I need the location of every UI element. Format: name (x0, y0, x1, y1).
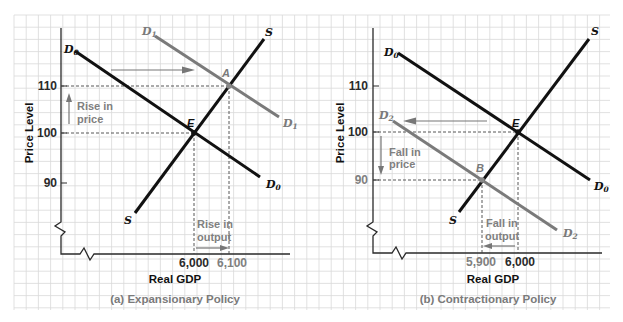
demand-curve-d0 (398, 53, 590, 180)
point-label-b: B (476, 162, 484, 174)
curve-label-d1: D1 (282, 117, 298, 131)
x-axis-title: Real GDP (149, 273, 202, 285)
point-label-e: E (187, 117, 195, 129)
curve-label-d2: D2 (378, 109, 394, 123)
arrow-head-icon (403, 118, 416, 125)
y-tick-label: 90 (44, 176, 58, 190)
curve-label-s: S (591, 25, 599, 38)
annotation-fall-price: price (389, 158, 415, 170)
x-tick-label: 6,000 (179, 256, 209, 270)
annotation-fall-price: Fall in (389, 146, 421, 158)
curve-label-d0: D0 (383, 46, 400, 60)
curve-label-d0: D0 (265, 178, 282, 192)
point-label-a: A (221, 67, 230, 79)
equilibrium-point-e (515, 129, 521, 135)
panel-caption: (a) Expansionary Policy (110, 293, 240, 305)
annotation-rise-price: Rise in (77, 100, 113, 112)
aggregate-demand-supply-figure: 110 100 90 6,000 6,100 Real GDP Price Le… (0, 0, 623, 322)
annotation-fall-output: Fall in (486, 217, 518, 229)
annotation-rise-output: output (197, 231, 232, 243)
y-tick-label: 110 (349, 79, 369, 93)
curve-label-d0: D0 (593, 180, 610, 194)
equilibrium-point-e (191, 130, 197, 136)
x-tick-label: 5,900 (466, 255, 496, 269)
annotation-rise-price: price (77, 113, 103, 125)
x-axis-title: Real GDP (467, 273, 520, 285)
point-label-e: E (512, 117, 520, 129)
curve-label-s: S (124, 214, 132, 227)
x-tick-label: 6,100 (217, 256, 247, 270)
equilibrium-point-a (226, 83, 232, 89)
equilibrium-point-b (479, 177, 485, 183)
y-axis (367, 28, 602, 259)
y-axis-title: Price Level (23, 103, 35, 164)
annotation-rise-output: Rise in (197, 218, 233, 230)
panel-contractionary: 110 100 90 5,900 6,000 Real GDP Price Le… (334, 25, 610, 305)
arrow-left-icon (483, 243, 492, 249)
y-tick-label: 90 (355, 173, 369, 187)
y-tick-label: 100 (348, 125, 368, 139)
y-tick-label: 100 (37, 126, 57, 140)
annotation-fall-output: output (485, 230, 520, 242)
arrow-head-icon (182, 67, 195, 74)
curve-label-s: S (265, 26, 273, 39)
curve-label-s: S (449, 214, 457, 227)
y-axis-title: Price Level (334, 103, 346, 164)
y-tick-label: 110 (38, 79, 58, 93)
panel-caption: (b) Contractionary Policy (420, 293, 557, 305)
curve-label-d0: D0 (63, 43, 80, 57)
arrow-up-icon (66, 93, 72, 102)
arrow-right-icon (220, 245, 229, 251)
x-tick-label: 6,000 (505, 255, 535, 269)
